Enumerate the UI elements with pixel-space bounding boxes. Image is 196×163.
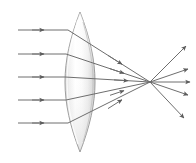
converging-arrow-4 <box>110 91 124 96</box>
converging-arrow-3 <box>114 80 128 81</box>
converging-ray-arrowheads <box>108 55 128 108</box>
ray-diagram-canvas: Converging (biconvex) lens ray diagram <box>0 0 196 163</box>
diverging-ray-2 <box>150 69 188 82</box>
diverging-rays-group <box>150 46 190 118</box>
diverging-ray-1 <box>150 46 186 82</box>
converging-arrow-2 <box>110 69 124 74</box>
incident-ray-arrowheads <box>32 30 44 123</box>
lens-sheen <box>65 12 95 152</box>
converging-arrow-5 <box>108 100 122 109</box>
optics-diagram-svg: Converging (biconvex) lens ray diagram <box>0 0 196 163</box>
lens-group <box>65 12 95 152</box>
converging-arrow-1 <box>108 55 122 64</box>
